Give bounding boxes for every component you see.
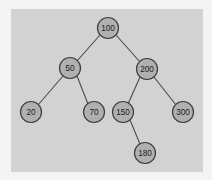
tree-node-label-50: 50 (65, 64, 75, 73)
tree-node-label-180: 180 (138, 149, 152, 158)
tree-node-label-150: 150 (116, 108, 130, 117)
tree-edge-n50-to-n70 (77, 76, 88, 104)
tree-node-50[interactable]: 50 (60, 58, 81, 79)
tree-node-100[interactable]: 100 (98, 18, 119, 39)
tree-node-180[interactable]: 180 (135, 143, 156, 164)
tree-edge-n100-to-n200 (116, 35, 140, 62)
tree-node-70[interactable]: 70 (84, 102, 105, 123)
binary-search-tree-svg: 100502002070150300180 (0, 0, 212, 180)
tree-node-300[interactable]: 300 (173, 102, 194, 123)
tree-nodes-group: 100502002070150300180 (21, 18, 194, 164)
tree-node-150[interactable]: 150 (113, 102, 134, 123)
tree-node-200[interactable]: 200 (137, 59, 158, 80)
tree-node-label-100: 100 (101, 24, 115, 33)
tree-node-label-300: 300 (176, 108, 190, 117)
tree-edge-n150-to-n180 (130, 120, 140, 144)
tree-node-label-70: 70 (89, 108, 99, 117)
tree-node-label-200: 200 (140, 65, 154, 74)
diagram-canvas: 100502002070150300180 (0, 0, 212, 180)
tree-edges-group (38, 35, 176, 144)
tree-node-20[interactable]: 20 (21, 102, 42, 123)
tree-edge-n200-to-n300 (154, 77, 176, 105)
tree-edge-n100-to-n50 (77, 35, 100, 61)
tree-node-label-20: 20 (26, 108, 36, 117)
tree-edge-n50-to-n20 (38, 76, 63, 105)
tree-edge-n200-to-n150 (128, 77, 140, 104)
